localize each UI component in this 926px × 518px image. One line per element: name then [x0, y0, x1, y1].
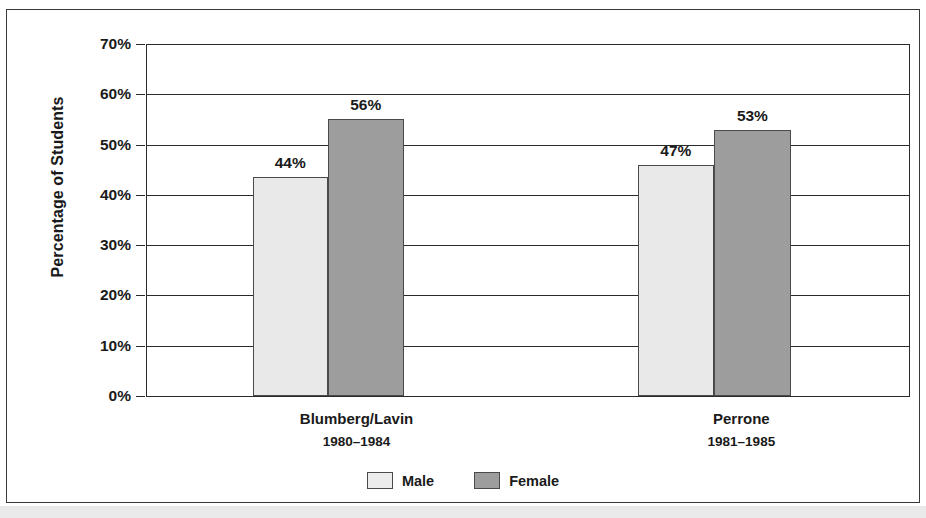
x-axis-category-label: Perrone1981–1985	[708, 410, 776, 450]
bar-value-label: 53%	[737, 107, 768, 125]
y-axis-tick-mark	[136, 245, 145, 246]
category-period: 1980–1984	[300, 434, 413, 450]
x-axis-category-label: Blumberg/Lavin1980–1984	[300, 410, 413, 450]
y-axis-tick-label: 60%	[100, 85, 131, 103]
y-axis-tick-label: 10%	[100, 337, 131, 355]
plot-area: 70%60%50%40%30%20%10%0%44%56%Blumberg/La…	[146, 44, 910, 397]
gridline	[147, 94, 909, 95]
legend-swatch-female	[474, 472, 500, 489]
y-axis-tick-label: 40%	[100, 186, 131, 204]
legend-item-male: Male	[367, 472, 434, 489]
bar-value-label: 47%	[660, 142, 691, 160]
y-axis-tick-label: 70%	[100, 35, 131, 53]
y-axis-tick-label: 0%	[109, 387, 131, 405]
category-name: Blumberg/Lavin	[300, 410, 413, 429]
y-axis-tick-label: 50%	[100, 136, 131, 154]
page-scan-strip	[0, 506, 926, 518]
y-axis-title: Percentage of Students	[49, 37, 67, 337]
bar-female-1: 56%	[328, 119, 404, 396]
y-axis-tick-mark	[136, 346, 145, 347]
bar-value-label: 44%	[275, 154, 306, 172]
gridline	[147, 145, 909, 146]
gridline	[147, 396, 909, 397]
chart-legend: MaleFemale	[0, 472, 926, 489]
legend-label: Male	[402, 473, 434, 489]
bar-female-2: 53%	[714, 130, 791, 397]
bar-value-label: 56%	[350, 96, 381, 114]
y-axis-tick-mark	[136, 396, 145, 397]
category-period: 1981–1985	[708, 434, 776, 450]
bar-male-1: 44%	[253, 177, 328, 396]
legend-swatch-male	[367, 472, 393, 489]
y-axis-tick-mark	[136, 145, 145, 146]
y-axis-tick-label: 20%	[100, 286, 131, 304]
gridline	[147, 44, 909, 45]
y-axis-tick-mark	[136, 195, 145, 196]
chart-page: Percentage of Students 70%60%50%40%30%20…	[0, 0, 926, 518]
legend-label: Female	[509, 473, 559, 489]
y-axis-tick-mark	[136, 295, 145, 296]
legend-item-female: Female	[474, 472, 559, 489]
bar-male-2: 47%	[638, 165, 714, 396]
category-name: Perrone	[708, 410, 776, 429]
y-axis-tick-mark	[136, 94, 145, 95]
y-axis-tick-mark	[136, 44, 145, 45]
y-axis-tick-label: 30%	[100, 236, 131, 254]
